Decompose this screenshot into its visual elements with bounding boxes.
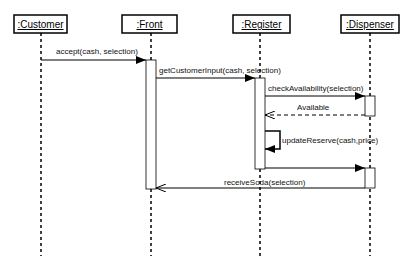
activation-dispenser-2 <box>365 168 375 188</box>
message-available-return: Available <box>265 103 365 115</box>
activation-front <box>146 60 156 189</box>
message-update-reserve-self: updateReserve(cash,price) <box>265 131 378 149</box>
message-available-label: Available <box>297 103 330 112</box>
object-front-label: :Front <box>136 19 162 30</box>
message-get-customer-input: getCustomerInput(cash, selection) <box>156 66 281 78</box>
object-dispenser: :Dispenser <box>341 15 399 33</box>
sequence-diagram: :Customer :Front :Register :Dispenser ac… <box>0 0 405 270</box>
message-receive-soda-label: receiveSoda(selection) <box>224 178 306 187</box>
object-register-label: :Register <box>241 19 282 30</box>
message-accept-label: accept(cash, selection) <box>56 47 138 56</box>
message-get-customer-input-label: getCustomerInput(cash, selection) <box>159 66 281 75</box>
message-check-availability-label: checkAvailability(selection) <box>268 84 364 93</box>
object-register: :Register <box>233 15 290 33</box>
activation-register <box>255 78 265 169</box>
object-customer-label: :Customer <box>17 19 64 30</box>
message-check-availability: checkAvailability(selection) <box>265 84 365 96</box>
object-front: :Front <box>122 15 177 33</box>
message-accept: accept(cash, selection) <box>41 47 146 60</box>
object-dispenser-label: :Dispenser <box>346 19 394 30</box>
activation-dispenser-1 <box>365 96 375 116</box>
message-receive-soda: receiveSoda(selection) <box>156 178 365 188</box>
object-customer: :Customer <box>14 15 67 33</box>
message-update-reserve-label: updateReserve(cash,price) <box>282 136 378 145</box>
